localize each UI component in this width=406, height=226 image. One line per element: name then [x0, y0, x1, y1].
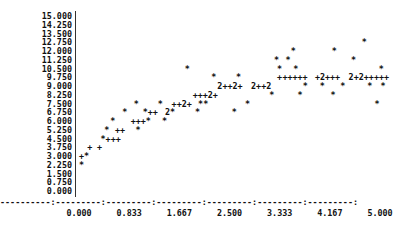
- data-point-marker: *: [367, 82, 372, 91]
- x-tick-label: 4.167: [310, 209, 350, 218]
- x-axis-line: ----------:---------:---------:---------…: [0, 198, 358, 207]
- data-point-marker: *: [374, 100, 379, 109]
- data-point-marker: *: [195, 108, 200, 117]
- x-tick-label: 0.833: [109, 209, 149, 218]
- data-point-marker: *: [245, 100, 250, 109]
- data-point-marker: *: [320, 82, 325, 91]
- y-axis-line: [75, 11, 76, 197]
- data-point-marker: *: [331, 91, 336, 100]
- data-point-marker: *: [297, 91, 302, 100]
- data-point-marker: *: [340, 82, 345, 91]
- data-point-marker: *: [381, 82, 386, 91]
- data-point-marker: *: [332, 47, 337, 56]
- data-point-marker: *+++: [101, 135, 121, 144]
- data-point-marker: *: [211, 73, 216, 82]
- data-point-marker: *: [158, 100, 163, 109]
- data-point-marker: *: [185, 65, 190, 74]
- data-point-marker: *: [162, 117, 167, 126]
- data-point-marker: *: [362, 38, 367, 47]
- data-point-marker: *: [79, 161, 84, 170]
- data-point-marker: +2+++: [315, 73, 340, 82]
- data-point-marker: +: [277, 73, 282, 82]
- data-point-marker: 2++2+: [217, 82, 242, 91]
- data-point-marker: *: [232, 108, 237, 117]
- data-point-marker: +++*: [131, 117, 151, 126]
- data-point-marker: *: [134, 100, 139, 109]
- x-tick-label: 2.500: [210, 209, 250, 218]
- data-point-marker: *: [351, 56, 356, 65]
- data-point-marker: *: [135, 126, 140, 135]
- x-tick-label: 5.000: [360, 209, 400, 218]
- y-tick-label: 0.000: [30, 187, 72, 196]
- x-tick-label: 0.000: [59, 209, 99, 218]
- data-point-marker: *: [269, 91, 274, 100]
- x-tick-label: 1.667: [159, 209, 199, 218]
- x-tick-label: 3.333: [260, 209, 300, 218]
- data-point-marker: *: [303, 82, 308, 91]
- data-point-marker: *: [122, 108, 127, 117]
- scatter-chart: 15.00014.25013.50012.75012.00011.25010.5…: [0, 0, 406, 226]
- data-point-marker: *: [291, 47, 296, 56]
- data-point-marker: *: [285, 56, 290, 65]
- data-point-marker: +: [97, 143, 102, 152]
